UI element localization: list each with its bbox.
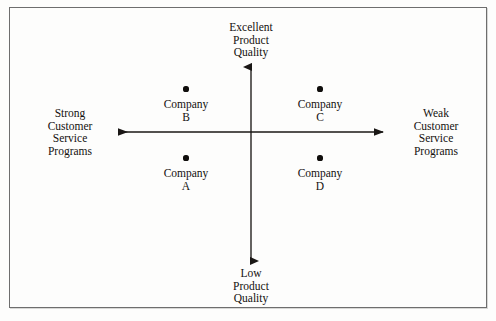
point-label: Company A — [131, 167, 241, 193]
axis-label-top: Excellent Product Quality — [201, 21, 301, 59]
point-label: Company B — [131, 98, 241, 124]
point-marker-icon — [183, 86, 188, 91]
point-label: Company D — [265, 167, 375, 193]
diagram-canvas: Excellent Product Quality Low Product Qu… — [0, 0, 496, 321]
axis-label-right: Weak Customer Service Programs — [388, 107, 484, 157]
point-marker-icon — [183, 155, 188, 160]
axis-label-bottom: Low Product Quality — [201, 267, 301, 305]
point-label: Company C — [265, 98, 375, 124]
point-marker-icon — [317, 86, 322, 91]
point-marker-icon — [317, 155, 322, 160]
axis-label-left: Strong Customer Service Programs — [15, 107, 125, 157]
